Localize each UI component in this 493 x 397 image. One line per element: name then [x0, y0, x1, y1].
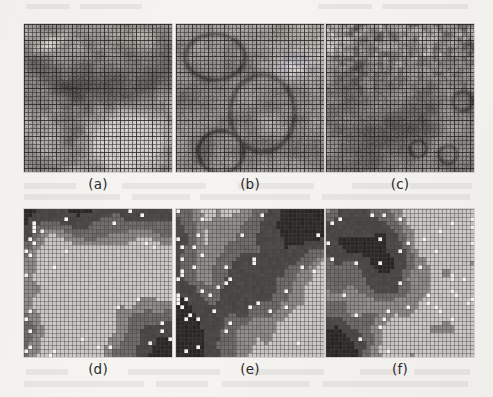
panel-d-image — [24, 209, 172, 357]
panel-b-image — [176, 24, 324, 172]
panel-f-image — [326, 209, 474, 357]
figure-panel-grid: (a) (b) (c) (d) (e) (f) — [0, 0, 493, 397]
panel-e-image — [176, 209, 324, 357]
panel-a-label: (a) — [24, 176, 172, 192]
panel-b-label: (b) — [176, 176, 324, 192]
panel-c-image — [326, 24, 474, 172]
panel-d-label: (d) — [24, 361, 172, 377]
panel-a-image — [24, 24, 172, 172]
panel-c-label: (c) — [326, 176, 474, 192]
panel-f-label: (f) — [326, 361, 474, 377]
panel-e-label: (e) — [176, 361, 324, 377]
